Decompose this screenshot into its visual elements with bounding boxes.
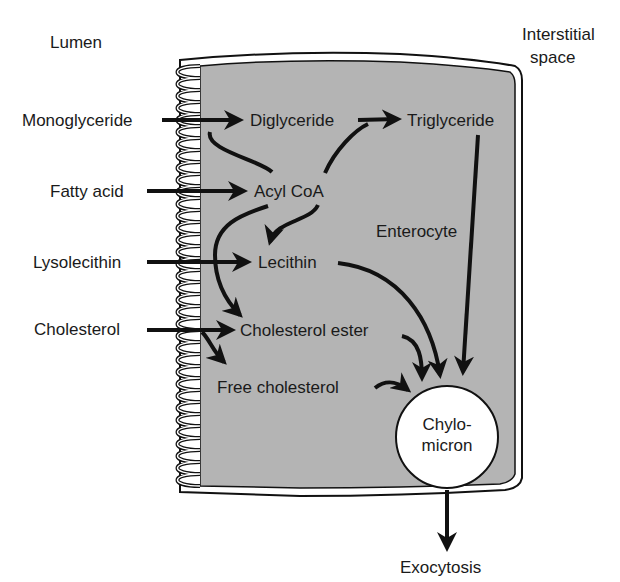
triglyceride-label: Triglyceride bbox=[407, 111, 494, 130]
lumen-label: Lumen bbox=[50, 33, 102, 52]
acyl-coa-label: Acyl CoA bbox=[254, 182, 325, 201]
chylomicron-label-line1: Chylo- bbox=[422, 415, 471, 434]
cholesterol-label: Cholesterol bbox=[34, 320, 120, 339]
chylomicron: Chylo- micron bbox=[396, 386, 498, 488]
chylomicron-label-line2: micron bbox=[421, 436, 472, 455]
arrow-diglyceride-triglyceride bbox=[358, 119, 398, 120]
fatty-acid-label: Fatty acid bbox=[50, 182, 124, 201]
lysolecithin-label: Lysolecithin bbox=[33, 253, 121, 272]
exocytosis-label: Exocytosis bbox=[400, 558, 481, 577]
diglyceride-label: Diglyceride bbox=[250, 111, 334, 130]
lecithin-label: Lecithin bbox=[258, 253, 317, 272]
cholesterol-ester-label: Cholesterol ester bbox=[240, 321, 369, 340]
monoglyceride-label: Monoglyceride bbox=[22, 111, 133, 130]
lipid-absorption-diagram: Lumen Interstitial space Enterocyte Mono… bbox=[0, 0, 620, 582]
enterocyte-label: Enterocyte bbox=[376, 222, 457, 241]
interstitial-label-line2: space bbox=[530, 48, 575, 67]
interstitial-label-line1: Interstitial bbox=[522, 25, 595, 44]
free-cholesterol-label: Free cholesterol bbox=[217, 378, 339, 397]
